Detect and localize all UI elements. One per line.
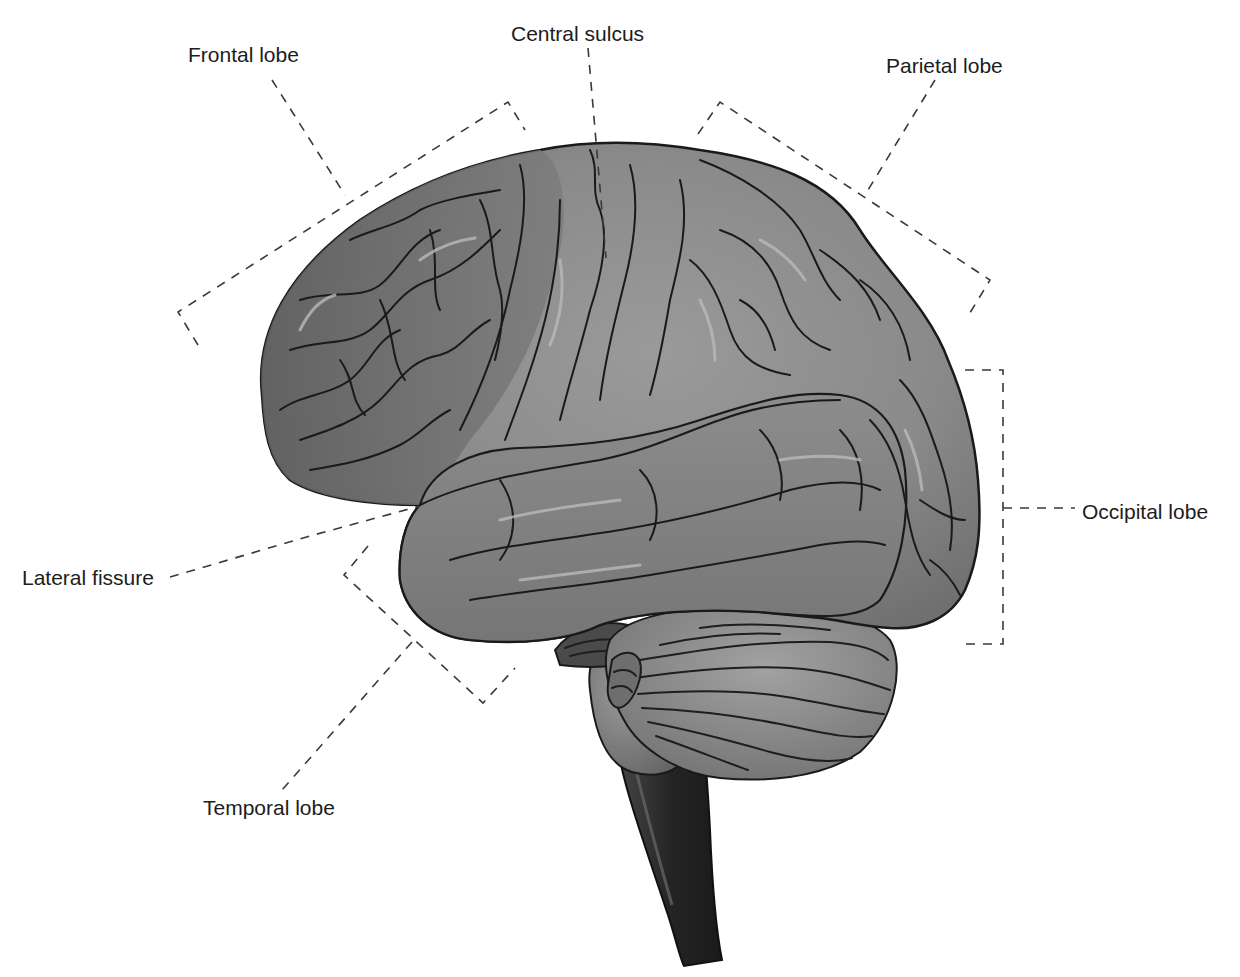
temporal-lobe-leader bbox=[282, 642, 412, 790]
frontal-lobe-leader bbox=[272, 80, 345, 195]
frontal-lobe-label: Frontal lobe bbox=[188, 44, 299, 65]
brain-diagram: Frontal lobe Central sulcus Parietal lob… bbox=[0, 0, 1240, 977]
temporal-lobe-label: Temporal lobe bbox=[203, 797, 335, 818]
parietal-lobe-leader bbox=[865, 80, 935, 195]
central-sulcus-label: Central sulcus bbox=[511, 23, 644, 44]
parietal-lobe-label: Parietal lobe bbox=[886, 55, 1003, 76]
lateral-fissure-label: Lateral fissure bbox=[22, 567, 154, 588]
occipital-lobe-label: Occipital lobe bbox=[1082, 501, 1208, 522]
brain-illustration bbox=[0, 0, 1240, 977]
cerebrum bbox=[261, 143, 979, 642]
lateral-fissure-leader bbox=[170, 506, 420, 577]
